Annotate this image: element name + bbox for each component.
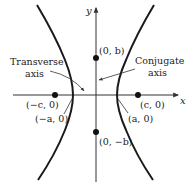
conjugate-axis-label-line2: axis	[148, 67, 167, 78]
y-axis: y	[85, 5, 96, 182]
pos-vertex-label: (a, 0)	[128, 113, 153, 124]
transverse-axis-label-line2: axis	[25, 68, 44, 79]
pos-focus-label: (c, 0)	[140, 99, 165, 110]
hyperbola-diagram: x y Transverse axis Conjugate axis (−c, …	[0, 0, 193, 194]
y-axis-label: y	[85, 5, 92, 16]
hyperbola-right-branch	[117, 5, 154, 180]
conjugate-axis-pointer	[99, 69, 135, 80]
neg-focus-point	[52, 92, 58, 98]
transverse-axis-label-line1: Transverse	[10, 56, 64, 67]
neg-covertex-label: (0, −b)	[99, 136, 133, 147]
transverse-axis-pointer	[50, 71, 84, 91]
conjugate-axis-label-line1: Conjugate	[135, 55, 185, 66]
x-axis-label: x	[180, 95, 186, 106]
pos-focus-point	[135, 92, 141, 98]
neg-covertex-point	[93, 129, 99, 135]
pos-covertex-label: (0, b)	[99, 45, 125, 56]
neg-vertex-label: (−a, 0)	[35, 113, 68, 124]
neg-focus-label: (−c, 0)	[26, 99, 59, 110]
